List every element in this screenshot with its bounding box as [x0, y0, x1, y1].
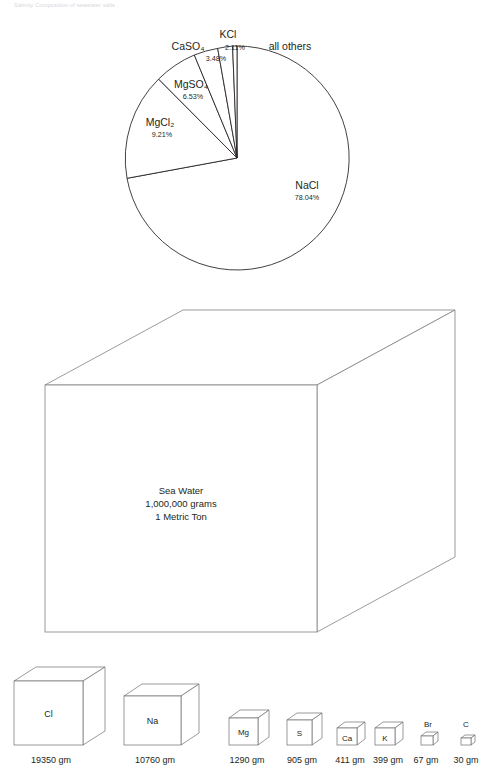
pie-label-mgso4: MgSO₄ [174, 78, 208, 90]
pie-label-mgcl2: MgCl₂ [146, 116, 175, 128]
pie-label-caso4: CaSO₄ [172, 40, 205, 52]
pie-value-caso4: 3.48% [206, 54, 227, 63]
ca-cube-symbol: Ca [342, 734, 353, 743]
pie-label-nacl: NaCl [295, 179, 318, 191]
sea-water-cube-body [45, 310, 455, 632]
pie-value-mgso4: 6.53% [183, 92, 204, 101]
sea-water-caption-line2: 1,000,000 grams [145, 498, 217, 509]
s-cube-mass: 905 gm [287, 755, 317, 765]
k-cube-symbol: K [382, 734, 388, 743]
element-cube-mg: Mg 1290 gm [229, 710, 269, 765]
pie-value-kcl: 2.11% [225, 43, 245, 52]
br-cube-mass: 67 gm [413, 755, 438, 765]
mg-cube-mass: 1290 gm [229, 755, 264, 765]
k-cube-mass: 399 gm [373, 755, 403, 765]
pie-label-kcl: KCl [220, 28, 237, 40]
element-cube-na: Na 10760 gm [124, 684, 199, 765]
element-cube-k: K 399 gm [373, 722, 403, 765]
c-cube-front-face [461, 738, 471, 745]
c-cube-mass: 30 gm [453, 755, 478, 765]
sea-water-caption-line3: 1 Metric Ton [155, 511, 207, 522]
mg-cube-symbol: Mg [238, 728, 249, 737]
seawater-composition-figure: Salinity Composition of seawater salts N… [0, 0, 492, 779]
pie-label-all-others: all others [269, 40, 312, 52]
element-cube-s: S 905 gm [287, 713, 322, 765]
salt-composition-pie-chart: NaCl 78.04% MgCl₂ 9.21% MgSO₄ 6.53% CaSO… [0, 14, 492, 304]
element-cube-ca: Ca 411 gm [335, 722, 365, 765]
element-cube-cl: Cl 19350 gm [14, 667, 105, 765]
br-cube-front-face [421, 736, 433, 745]
pie-slices [125, 46, 349, 270]
cl-cube-mass: 19350 gm [31, 755, 71, 765]
sea-water-cube: Sea Water 1,000,000 grams 1 Metric Ton [0, 295, 492, 655]
element-cube-br: Br 67 gm [413, 720, 438, 765]
br-cube-symbol: Br [424, 720, 432, 729]
na-cube-symbol: Na [147, 716, 159, 726]
element-cubes-row: Cl 19350 gm Na 10760 gm Mg 1290 gm S 905… [0, 662, 492, 779]
pie-value-mgcl2: 9.21% [152, 130, 173, 139]
page-header-fragment: Salinity Composition of seawater salts [0, 0, 492, 14]
s-cube-symbol: S [297, 729, 302, 738]
c-cube-symbol: C [463, 720, 469, 729]
cl-cube-right-face [83, 667, 105, 745]
sea-water-caption-line1: Sea Water [159, 485, 204, 496]
ca-cube-mass: 411 gm [335, 755, 364, 765]
na-cube-mass: 10760 gm [135, 755, 175, 765]
element-cube-c: C 30 gm [453, 720, 478, 765]
pie-value-nacl: 78.04% [295, 193, 320, 202]
cl-cube-symbol: Cl [44, 709, 53, 719]
page-header-text: Salinity Composition of seawater salts [14, 2, 115, 8]
